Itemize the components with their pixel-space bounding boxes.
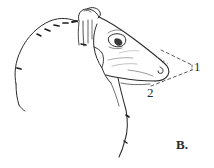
nostril-path <box>158 67 163 73</box>
throat-lower-path <box>19 105 25 111</box>
throat-beard-group <box>19 68 129 157</box>
cheek-crease-path <box>112 64 137 66</box>
cheek-crease-path <box>108 58 133 60</box>
nape-outline-path <box>15 18 78 84</box>
measurement-label-1: 1 <box>194 60 201 73</box>
mane-tuft-mark <box>37 34 41 36</box>
measurement-label-2: 2 <box>147 86 154 99</box>
mane-tuft-mark <box>45 29 50 31</box>
eye-brow-crease-path <box>108 30 123 33</box>
neck-crest-group <box>15 18 78 105</box>
jowl-contour-path <box>94 47 104 67</box>
eye-pupil-path <box>115 39 122 46</box>
cheek-front-contour-path <box>94 24 102 68</box>
eye-lower-crease-path <box>109 47 122 49</box>
figure-panel-label: B. <box>176 138 188 151</box>
ear-hair-tuft-mark <box>81 44 86 45</box>
neck-lower-outline-path <box>16 84 19 105</box>
eye-group <box>108 30 126 49</box>
mane-tuft-mark <box>54 25 59 26</box>
ear-inner-path <box>84 10 91 12</box>
lower-lip-path <box>121 83 150 85</box>
cheek-crease-path <box>119 51 139 53</box>
muzzle-shade-path <box>128 70 153 76</box>
figure-panel: 1 2 B. <box>0 0 214 168</box>
beard-outline-path <box>118 78 127 157</box>
beard-inner-path <box>111 83 119 106</box>
ear-hair-strand <box>78 22 79 45</box>
mouth-line-path <box>106 75 155 81</box>
mane-tuft-mark <box>72 21 77 22</box>
dashed-guide-upper <box>161 50 192 65</box>
dashed-guide-lower <box>151 70 192 86</box>
nose-tip-path <box>155 62 169 81</box>
mane-tuft-mark <box>17 68 21 69</box>
ear-hair-strand <box>83 21 84 46</box>
ear-horn-group <box>78 8 100 46</box>
